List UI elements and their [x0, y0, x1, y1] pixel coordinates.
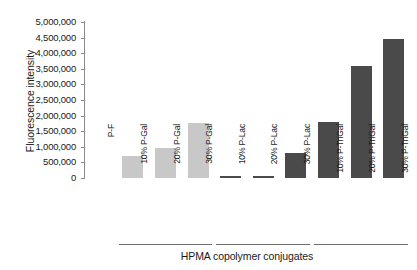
x-axis-title: HPMA copolymer conjugates: [84, 249, 410, 264]
y-axis-tick: 3,000,000: [0, 84, 84, 85]
x-axis-category-label: 10% P-Gal: [138, 124, 150, 182]
y-axis-tick-label: 2,000,000: [36, 109, 76, 122]
x-axis-group-bracket: [314, 244, 408, 245]
y-axis-tick-label: 4,000,000: [36, 46, 76, 59]
y-axis-tick-label: 4,500,000: [36, 31, 76, 44]
y-axis-tick: 2,000,000: [0, 116, 84, 117]
y-axis-tick-label: 500,000: [43, 155, 76, 168]
y-axis-tick-label: 1,000,000: [36, 140, 76, 153]
y-axis-tick-label: 3,000,000: [36, 77, 76, 90]
y-axis-tick: 2,500,000: [0, 100, 84, 101]
y-axis-tick-label: 0: [71, 171, 76, 184]
x-axis-category-label: 30% P-Lac: [301, 124, 313, 182]
x-axis-group-bracket: [216, 244, 310, 245]
y-axis-tick: 5,000,000: [0, 22, 84, 23]
bar-chart-figure: Fluorescence intensity 5,000,0004,500,00…: [0, 0, 417, 270]
x-axis-category-label: P-F: [105, 124, 117, 182]
x-axis-category-label: 20% P-Gal: [171, 124, 183, 182]
y-axis-tick-label: 1,500,000: [36, 124, 76, 137]
y-axis-tick-label: 2,500,000: [36, 93, 76, 106]
y-axis-tick: 1,500,000: [0, 131, 84, 132]
y-axis-tick: 500,000: [0, 162, 84, 163]
y-axis-tick: 1,000,000: [0, 147, 84, 148]
y-axis-tick: 0: [0, 178, 84, 179]
y-axis-tick-label: 5,000,000: [36, 15, 76, 28]
y-axis-tick: 3,500,000: [0, 69, 84, 70]
x-axis-group-bracket: [119, 244, 213, 245]
y-axis-tick: 4,000,000: [0, 53, 84, 54]
y-axis-tick-label: 3,500,000: [36, 62, 76, 75]
x-axis-category-label: 10% P-Lac: [236, 124, 248, 182]
x-axis-category-label: 20% P-Lac: [268, 124, 280, 182]
x-axis-category-label: 10% P-TriGal: [334, 124, 346, 182]
y-axis-tick: 4,500,000: [0, 38, 84, 39]
x-axis-category-label: 30% P-TriGal: [399, 124, 411, 182]
x-axis-category-label: 30% P-Gal: [203, 124, 215, 182]
x-axis-category-label: 20% P-TriGal: [366, 124, 378, 182]
